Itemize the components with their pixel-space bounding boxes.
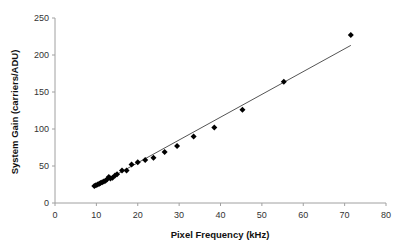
x-axis-title: Pixel Frequency (kHz) [171, 229, 270, 240]
y-axis-title: System Gain (carriers/ADU) [9, 50, 20, 175]
y-tick-label: 0 [44, 198, 49, 208]
axes: 05010015020025001020304050607080 [34, 13, 391, 220]
data-point-diamond [162, 149, 168, 155]
y-tick-label: 200 [34, 50, 49, 60]
x-tick-label: 70 [340, 210, 350, 220]
data-point-diamond [239, 107, 245, 113]
x-tick-label: 30 [174, 210, 184, 220]
data-point-diamond [129, 162, 135, 168]
x-tick-label: 60 [298, 210, 308, 220]
x-tick-label: 80 [381, 210, 391, 220]
x-tick-label: 10 [91, 210, 101, 220]
y-tick-label: 50 [39, 161, 49, 171]
y-tick-label: 250 [34, 13, 49, 23]
data-point-diamond [191, 133, 197, 139]
data-points [91, 32, 354, 189]
x-tick-label: 20 [133, 210, 143, 220]
x-tick-label: 50 [257, 210, 267, 220]
data-point-diamond [211, 125, 217, 131]
y-tick-label: 150 [34, 87, 49, 97]
scatter-chart: 05010015020025001020304050607080 Pixel F… [0, 0, 410, 251]
data-point-diamond [174, 143, 180, 149]
data-point-diamond [348, 32, 354, 38]
y-tick-label: 100 [34, 124, 49, 134]
x-tick-label: 40 [215, 210, 225, 220]
x-tick-label: 0 [52, 210, 57, 220]
